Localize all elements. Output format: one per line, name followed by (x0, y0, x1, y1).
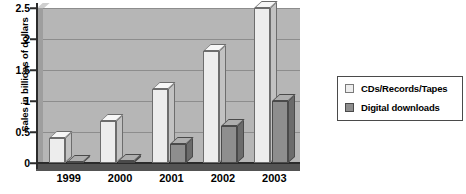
legend-item[interactable]: CDs/Records/Tapes (345, 83, 455, 94)
y-axis-tick-label: 1 (4, 96, 30, 107)
bar-side-face (237, 119, 244, 162)
bar-front-face (221, 126, 237, 163)
legend-item-label: CDs/Records/Tapes (361, 83, 448, 94)
bar-side-face (288, 95, 295, 163)
bar-1999-series0 (49, 138, 65, 163)
bar-2001-series1 (170, 144, 186, 163)
y-axis-tick-labels: 00.511.522.5 (0, 0, 30, 194)
y-axis-tick-mark (30, 162, 36, 164)
y-axis-tick-label: 2 (4, 34, 30, 45)
y-axis-tick-label: 0.5 (4, 127, 30, 138)
bar-front-face (272, 101, 288, 163)
dark-swatch-icon (345, 103, 354, 112)
bar-2002-series1 (221, 126, 237, 163)
legend-item-label: Digital downloads (361, 102, 440, 113)
y-axis-tick-label: 1.5 (4, 65, 30, 76)
x-axis-tick-label: 2003 (246, 172, 302, 184)
x-axis-tick-label: 1999 (41, 172, 97, 184)
bar-front-face (49, 138, 65, 163)
bar-2003-series0 (254, 8, 270, 163)
bar-front-face (203, 51, 219, 163)
bar-2000-series0 (100, 121, 116, 163)
y-axis-line (36, 3, 38, 169)
x-axis-tick-label: 2001 (144, 172, 200, 184)
y-axis-tick-label: 2.5 (4, 3, 30, 14)
bar-1999-series1 (67, 162, 83, 164)
bar-front-face (254, 8, 270, 163)
x-axis-tick-label: 2000 (92, 172, 148, 184)
bar-front-face (100, 121, 116, 163)
legend: CDs/Records/TapesDigital downloads (337, 76, 463, 121)
y-axis-tick-mark (30, 69, 36, 71)
y-axis-tick-mark (30, 100, 36, 102)
bar-2003-series1 (272, 101, 288, 163)
legend-item[interactable]: Digital downloads (345, 102, 455, 113)
y-axis-tick-label: 0 (4, 158, 30, 169)
bar-front-face (118, 161, 134, 163)
bar-front-face (67, 161, 83, 163)
bar-front-face (170, 144, 186, 163)
y-axis-tick-mark (30, 38, 36, 40)
bar-chart: Sales in billions of dollars 00.511.522.… (0, 0, 466, 194)
light-swatch-icon (345, 84, 354, 93)
bar-2000-series1 (118, 161, 134, 163)
x-axis-tick-label: 2002 (195, 172, 251, 184)
bar-2001-series0 (152, 89, 168, 163)
bar-2002-series0 (203, 51, 219, 163)
plot-floor (36, 163, 300, 171)
y-axis-tick-mark (30, 131, 36, 133)
bar-front-face (152, 89, 168, 163)
y-axis-tick-mark (30, 7, 36, 9)
